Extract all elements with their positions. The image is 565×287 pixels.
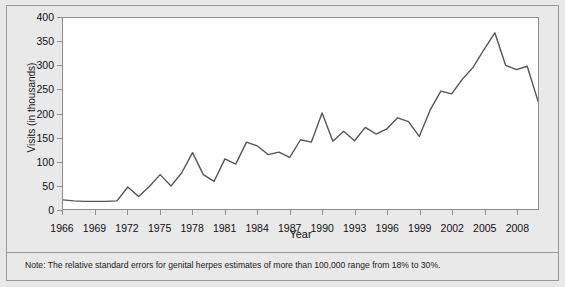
y-tick-label: 200 (36, 108, 54, 120)
x-tick-mark (420, 210, 421, 215)
x-tick-mark (257, 210, 258, 215)
x-tick-mark (225, 210, 226, 215)
footnote-text: Note: The relative standard errors for g… (25, 260, 440, 270)
figure-container: Visits (in thousands) 050100150200250300… (0, 0, 565, 287)
visits-series-line (63, 33, 538, 202)
y-axis-tick-labels: 050100150200250300350400 (7, 6, 62, 221)
x-tick-mark (517, 210, 518, 215)
x-tick-mark (127, 210, 128, 215)
x-tick-mark (387, 210, 388, 215)
y-tick-label: 150 (36, 132, 54, 144)
x-tick-mark (192, 210, 193, 215)
y-tick-label: 100 (36, 156, 54, 168)
x-tick-mark (322, 210, 323, 215)
chart-plot-region: Visits (in thousands) 050100150200250300… (7, 6, 560, 245)
x-tick-mark (62, 210, 63, 215)
plot-area (62, 17, 539, 210)
x-tick-mark (95, 210, 96, 215)
y-tick-label: 250 (36, 83, 54, 95)
y-tick-label: 300 (36, 59, 54, 71)
line-chart-svg (63, 18, 538, 209)
x-axis-title: Year (62, 228, 539, 240)
x-tick-mark (290, 210, 291, 215)
x-tick-mark (355, 210, 356, 215)
x-tick-mark (485, 210, 486, 215)
x-tick-mark (452, 210, 453, 215)
y-tick-label: 50 (42, 180, 54, 192)
x-tick-mark (160, 210, 161, 215)
note-region: Note: The relative standard errors for g… (7, 253, 558, 280)
y-tick-label: 350 (36, 35, 54, 47)
chart-frame: Visits (in thousands) 050100150200250300… (6, 5, 559, 281)
y-tick-label: 400 (36, 11, 54, 23)
